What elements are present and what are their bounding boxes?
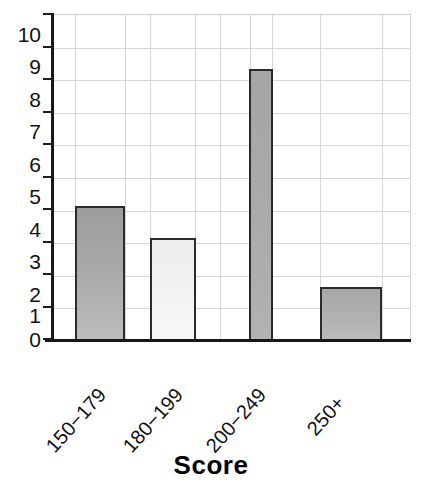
y-tick-label: 8 xyxy=(1,89,41,110)
y-tick-label: 3 xyxy=(1,251,41,272)
x-axis-title: Score xyxy=(0,450,422,481)
x-tick-label-200-249: 200−249 xyxy=(202,384,269,456)
y-tick-label: 6 xyxy=(1,154,41,175)
bar-250-plus xyxy=(320,287,382,342)
y-tick-mark xyxy=(43,338,53,340)
gridline-horizontal xyxy=(53,145,410,146)
y-tick-mark xyxy=(43,13,53,15)
gridline-horizontal xyxy=(53,113,410,114)
y-tick-mark xyxy=(43,143,53,145)
y-tick-label: 5 xyxy=(1,186,41,207)
y-tick-label: 0 xyxy=(1,329,41,350)
y-tick-label: 7 xyxy=(1,121,41,142)
y-tick-mark xyxy=(43,176,53,178)
bar-150-179 xyxy=(75,206,125,342)
y-tick-mark xyxy=(43,208,53,210)
gridline-vertical xyxy=(125,15,126,340)
bar-chart: 10 9 8 7 6 5 4 3 2 1 0 150−179 180−199 2… xyxy=(0,0,422,487)
y-tick-label: 2 xyxy=(1,284,41,305)
y-tick-mark xyxy=(43,241,53,243)
y-tick-label: 9 xyxy=(1,56,41,77)
x-tick-label-250-plus: 250+ xyxy=(303,392,348,439)
y-tick-mark xyxy=(43,78,53,80)
y-tick-label: 10 xyxy=(1,24,41,45)
gridline-vertical xyxy=(220,15,221,340)
y-tick-label: 1 xyxy=(1,305,41,326)
gridline-horizontal xyxy=(53,48,410,49)
y-tick-mark xyxy=(43,273,53,275)
y-tick-label: 4 xyxy=(1,219,41,240)
y-axis-tick-labels: 10 9 8 7 6 5 4 3 2 1 0 xyxy=(0,0,41,487)
x-axis-line xyxy=(45,339,411,342)
y-tick-mark xyxy=(43,46,53,48)
bar-180-199 xyxy=(150,238,196,342)
gridline-horizontal xyxy=(53,80,410,81)
y-tick-mark xyxy=(43,306,53,308)
bar-200-249 xyxy=(249,69,273,342)
x-tick-label-180-199: 180−199 xyxy=(119,384,186,456)
y-tick-mark xyxy=(43,111,53,113)
gridline-horizontal xyxy=(53,178,410,179)
gridline-vertical xyxy=(382,15,383,340)
x-tick-label-150-179: 150−179 xyxy=(42,384,109,456)
